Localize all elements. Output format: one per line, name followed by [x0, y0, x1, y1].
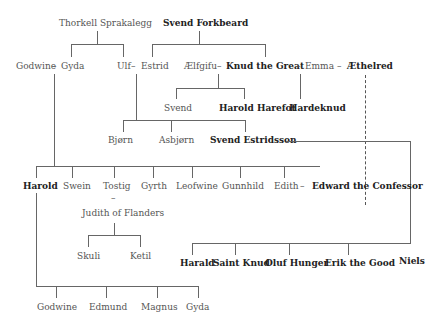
line: [36, 193, 37, 286]
marriage-symbol: –: [131, 61, 136, 72]
marriage-symbol: –: [52, 61, 57, 72]
line: [106, 286, 107, 298]
marriage-symbol: –: [296, 61, 301, 72]
line: [152, 44, 153, 57]
node-svend-estridsson: Svend Estridsson: [210, 135, 297, 146]
node-aelfgifu: Ælfgifu: [184, 61, 217, 72]
node-harold-harefot: Harold Harefot: [219, 103, 296, 114]
node-aethelred: Æthelred: [347, 61, 393, 72]
line: [240, 166, 241, 178]
node-emma: Emma: [305, 61, 334, 72]
node-asbjorn: Asbjørn: [159, 135, 194, 146]
marriage-symbol: –: [337, 61, 342, 72]
line: [157, 286, 158, 298]
node-svend-forkbeard: Svend Forkbeard: [163, 18, 248, 29]
line: [136, 74, 137, 120]
line: [192, 243, 193, 255]
node-thorkell-sprakalegg: Thorkell Sprakalegg: [59, 18, 152, 29]
node-edward-the-confessor: Edward the Confessor: [312, 181, 423, 192]
line: [71, 44, 72, 57]
node-gunnhild: Gunnhild: [222, 181, 264, 192]
node-harold: Harold: [23, 181, 58, 192]
line: [171, 120, 172, 132]
line: [54, 74, 55, 166]
line: [114, 166, 115, 178]
line: [153, 166, 154, 178]
line: [198, 286, 199, 298]
line: [36, 286, 198, 287]
node-godwine-son: Godwine: [37, 302, 77, 313]
line: [88, 235, 140, 236]
line: [72, 166, 73, 178]
node-hardeknud: Hardeknud: [289, 103, 346, 114]
marriage-symbol: –: [111, 193, 116, 204]
line: [245, 120, 246, 132]
node-tostig: Tostig: [103, 181, 131, 192]
family-tree-diagram: Thorkell Sprakalegg Svend Forkbeard Godw…: [0, 0, 437, 322]
line: [348, 243, 349, 255]
line: [123, 44, 124, 57]
line: [199, 31, 200, 44]
line: [192, 243, 411, 244]
line: [36, 166, 37, 178]
line: [123, 120, 245, 121]
line: [123, 120, 124, 132]
node-edmund: Edmund: [89, 302, 127, 313]
line: [114, 223, 115, 235]
line: [192, 166, 193, 178]
node-gyrth: Gyrth: [141, 181, 167, 192]
node-ulf: Ulf: [117, 61, 131, 72]
node-gyda: Gyda: [61, 61, 84, 72]
node-svend: Svend: [164, 103, 192, 114]
line: [97, 31, 98, 44]
node-magnus: Magnus: [141, 302, 178, 313]
node-erik-the-good: Erik the Good: [325, 258, 395, 269]
marriage-symbol: –: [217, 61, 222, 72]
node-niels: Niels: [399, 256, 425, 267]
marriage-symbol: –: [300, 181, 305, 192]
node-harald: Harald: [180, 258, 215, 269]
node-estrid: Estrid: [141, 61, 169, 72]
line: [300, 74, 301, 99]
line: [36, 166, 320, 167]
node-gyda-daughter: Gyda: [186, 302, 209, 313]
node-judith-of-flanders: Judith of Flanders: [82, 208, 164, 219]
line: [88, 235, 89, 247]
line: [152, 44, 265, 45]
node-knud-the-great: Knud the Great: [226, 61, 304, 72]
node-leofwine: Leofwine: [176, 181, 218, 192]
line: [176, 88, 177, 99]
line: [410, 141, 411, 243]
node-bjorn: Bjørn: [108, 135, 133, 146]
line: [218, 74, 219, 88]
node-skuli: Skuli: [77, 251, 100, 262]
node-ketil: Ketil: [130, 251, 151, 262]
node-oluf-hunger: Oluf Hunger: [265, 258, 328, 269]
node-edith: Edith: [274, 181, 299, 192]
line: [265, 44, 266, 57]
line: [284, 166, 285, 178]
node-godwine: Godwine: [16, 61, 56, 72]
node-swein: Swein: [63, 181, 91, 192]
node-saint-knud: Saint Knud: [213, 258, 270, 269]
line: [286, 141, 410, 142]
line: [289, 243, 290, 255]
line: [71, 44, 123, 45]
line: [140, 235, 141, 247]
line: [176, 88, 244, 89]
line: [235, 243, 236, 255]
line: [56, 286, 57, 298]
line: [244, 88, 245, 99]
